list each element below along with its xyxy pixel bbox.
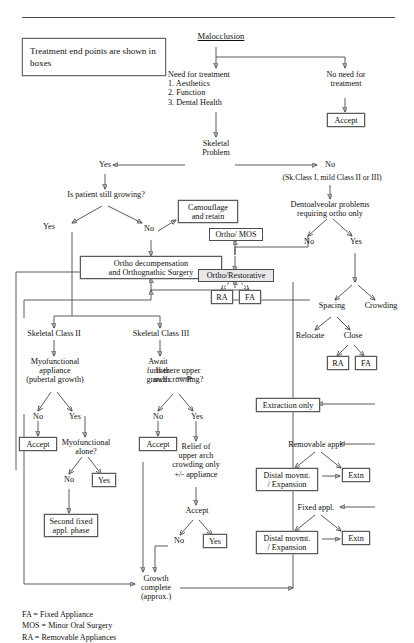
node-skeletal-class-iii: Skeletal Class III — [120, 329, 202, 338]
node-accept-relief: Accept — [178, 506, 216, 515]
node-need-for-treatment: Need for treatment 1. Aesthetics 2. Func… — [168, 70, 278, 107]
node-myofunctional-alone: Myofunctional alone? — [52, 438, 120, 456]
node-second-fixed-phase: Second fixed appl. phase — [44, 514, 98, 537]
node-skeletal-problem: Skeletal Problem — [190, 139, 242, 157]
node-no-need-for-treatment: No need for treatment — [310, 70, 382, 88]
node-spacing: Spacing — [310, 301, 354, 310]
label-skeletal-no: No — [320, 160, 340, 169]
label-alone-no: No — [60, 475, 78, 484]
header-rule — [22, 17, 395, 18]
label-growing-no: No — [140, 224, 158, 233]
node-fixed-appl: Fixed appl. — [288, 503, 344, 512]
node-myofunctional-appliance: Myofunctional appliance (pubertal growth… — [14, 357, 96, 385]
node-fa-close: FA — [355, 356, 377, 370]
node-relocate: Relocate — [288, 331, 332, 340]
node-ortho-mos: Ortho/ MOS — [209, 228, 263, 241]
node-ra-close: RA — [327, 356, 349, 370]
node-dentoalveolar-problems: Dentoalveolar problems requiring ortho o… — [272, 200, 388, 218]
node-crowding: Crowding — [356, 301, 406, 310]
node-camouflage-retain: Camouflage and retain — [178, 200, 238, 223]
label-dento-yes: Yes — [345, 237, 367, 246]
note-sk-class: (Sk.Class I, mild Class II or III) — [258, 174, 406, 183]
node-distal-fixed: Distal movmt. / Expansion — [256, 531, 318, 554]
node-removable-appl: Removable appl. — [283, 440, 349, 449]
node-growth-complete: Growth complete (approx.) — [130, 574, 182, 602]
node-ortho-restorative: Ortho/Restorative — [198, 269, 274, 282]
legend: FA = Fixed Appliance MOS = Minor Oral Su… — [22, 597, 116, 643]
node-upper-arch-crowding: Is there upper arch crowding? — [144, 366, 212, 384]
node-extraction-only: Extraction only — [256, 398, 320, 412]
node-extn-removable: Extn — [342, 468, 370, 482]
label-myo-yes: Yes — [64, 412, 86, 421]
node-is-patient-growing: Is patient still growing? — [48, 190, 164, 199]
info-box: Treatment end points are shown in boxes — [22, 38, 166, 76]
node-malocclusion: Malocclusion — [186, 32, 256, 42]
node-distal-removable: Distal movmt. / Expansion — [256, 468, 318, 491]
legend-text: FA = Fixed Appliance MOS = Minor Oral Su… — [22, 610, 116, 642]
node-relief-yes: Yes — [203, 534, 227, 548]
node-ra-restorative: RA — [211, 290, 233, 304]
label-relief-no: No — [170, 536, 188, 545]
label-skeletal-yes: Yes — [95, 160, 115, 169]
label-growing-yes: Yes — [38, 222, 60, 231]
flowchart-page: Treatment end points are shown in boxes — [0, 0, 414, 643]
label-myo-no: No — [29, 412, 47, 421]
info-box-text: Treatment end points are shown in boxes — [30, 45, 158, 70]
label-arch-no: No — [149, 412, 167, 421]
node-skeletal-class-ii: Skeletal Class II — [14, 329, 94, 338]
node-close: Close — [338, 331, 368, 340]
node-extn-fixed: Extn — [342, 531, 370, 545]
label-arch-yes: Yes — [186, 412, 208, 421]
node-alone-yes: Yes — [92, 473, 116, 487]
node-fa-restorative: FA — [239, 290, 261, 304]
label-dento-no: No — [300, 237, 318, 246]
node-relief-upper-arch: Relief of upper arch crowding only +/- a… — [166, 442, 226, 479]
node-accept-no-need: Accept — [327, 113, 365, 127]
